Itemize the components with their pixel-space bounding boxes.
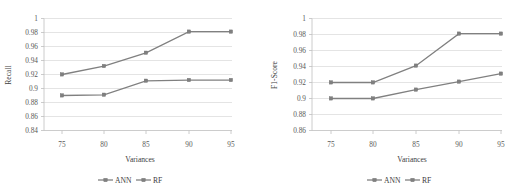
- f1score-xtick-label-90: 90: [455, 140, 463, 149]
- f1score-xtick-label-85: 85: [412, 140, 420, 149]
- f1score-ytick-label-098: 0.98: [293, 30, 306, 39]
- recall-xtick-label-90: 90: [185, 140, 193, 149]
- recall-chart-svg: 1 0.98 0.96 0.94 0.92 0.9 0.88 0.86 0.84…: [0, 0, 264, 195]
- recall-xtick-label-95: 95: [227, 140, 235, 149]
- recall-y-axis-title: Recall: [4, 65, 13, 84]
- f1score-legend-item-ann[interactable]: ANN: [367, 176, 401, 185]
- recall-x-ticks: [62, 131, 231, 135]
- f1score-x-axis-title: Variances: [397, 155, 427, 164]
- f1score-y-ticks: [309, 19, 312, 131]
- recall-series-rf-markers: [60, 78, 232, 97]
- f1score-y-axis-title: F1-Score: [270, 60, 279, 88]
- f1score-series-ann-markers: [329, 32, 502, 84]
- f1score-ytick-label-088: 0.88: [293, 110, 306, 119]
- f1score-ytick-label-09: 0.9: [296, 94, 305, 103]
- f1score-x-ticks: [331, 131, 501, 135]
- f1score-xtick-label-95: 95: [497, 140, 505, 149]
- recall-y-ticks: [41, 19, 44, 131]
- recall-ytick-label-086: 0.86: [25, 112, 38, 121]
- recall-legend-label-rf: RF: [153, 176, 162, 185]
- f1score-ytick-label-1: 1: [302, 14, 306, 23]
- f1score-ytick-label-094: 0.94: [293, 62, 306, 71]
- f1score-legend-label-ann: ANN: [384, 176, 401, 185]
- f1score-legend-label-rf: RF: [422, 176, 431, 185]
- recall-xtick-label-75: 75: [58, 140, 66, 149]
- recall-legend-label-ann: ANN: [115, 176, 132, 185]
- recall-ytick-label-084: 0.84: [25, 126, 38, 135]
- chart-panel-recall: 1 0.98 0.96 0.94 0.92 0.9 0.88 0.86 0.84…: [0, 0, 265, 195]
- recall-x-axis-title: Variances: [125, 155, 155, 164]
- recall-legend: ANN RF: [98, 176, 162, 185]
- recall-ytick-label-094: 0.94: [25, 56, 38, 65]
- recall-ytick-label-098: 0.98: [25, 28, 38, 37]
- f1score-gridlines: [312, 19, 502, 115]
- recall-ytick-label-1: 1: [34, 14, 38, 23]
- recall-ytick-label-09: 0.9: [29, 84, 38, 93]
- f1score-series-rf-line: [331, 74, 501, 99]
- f1score-ytick-label-096: 0.96: [293, 46, 306, 55]
- recall-ytick-label-092: 0.92: [25, 70, 38, 79]
- f1score-xtick-label-80: 80: [369, 140, 377, 149]
- f1score-xtick-label-75: 75: [327, 140, 335, 149]
- figure-container: 1 0.98 0.96 0.94 0.92 0.9 0.88 0.86 0.84…: [0, 0, 529, 195]
- recall-legend-item-rf[interactable]: RF: [136, 176, 162, 185]
- f1score-chart-svg: 1 0.98 0.96 0.94 0.92 0.9 0.88 0.86 75 8…: [265, 0, 529, 195]
- f1score-legend-item-rf[interactable]: RF: [405, 176, 431, 185]
- f1score-series-rf-markers: [329, 72, 502, 100]
- recall-gridlines: [44, 19, 232, 117]
- chart-panel-f1score: 1 0.98 0.96 0.94 0.92 0.9 0.88 0.86 75 8…: [265, 0, 529, 195]
- recall-xtick-label-85: 85: [142, 140, 150, 149]
- f1score-legend: ANN RF: [367, 176, 431, 185]
- f1score-ytick-label-092: 0.92: [293, 78, 306, 87]
- recall-ytick-label-096: 0.96: [25, 42, 38, 51]
- recall-ytick-label-088: 0.88: [25, 98, 38, 107]
- f1score-ytick-label-086: 0.86: [293, 126, 306, 135]
- recall-legend-item-ann[interactable]: ANN: [98, 176, 132, 185]
- f1score-series-ann-line: [331, 34, 501, 83]
- recall-xtick-label-80: 80: [100, 140, 108, 149]
